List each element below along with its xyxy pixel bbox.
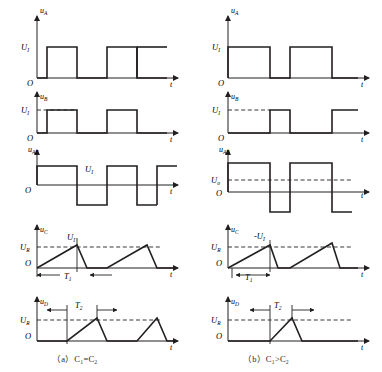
caption-b: （b）C₁>C₂: [243, 352, 289, 364]
origin-label-b1: O: [218, 78, 224, 88]
panel-b-uAB: uAB Uo O t: [211, 145, 369, 212]
level-label-UI-b1: UI: [212, 42, 221, 53]
interval-label-T1-a4: T1: [64, 271, 72, 282]
time-label-b1: t: [361, 80, 364, 89]
time-label-a1: t: [170, 80, 173, 89]
level-label-UI-a1: UI: [21, 42, 30, 53]
time-label-a5: t: [170, 343, 173, 352]
axis-label-uAB-right: uAB: [219, 145, 230, 155]
origin-label-a2: O: [27, 133, 33, 143]
interval-label-T2-b5: T2: [274, 300, 282, 311]
panel-a-uD: uD UR O T2 t: [20, 297, 178, 352]
origin-label-b5: O: [216, 331, 222, 341]
axis-label-uC-right: uC: [231, 225, 239, 235]
level-label-UR-b4: UR: [211, 242, 221, 253]
axis-label-uA-right: uA: [231, 6, 239, 16]
level-label-UR-b5: UR: [211, 315, 221, 326]
peak-label-UI-a4: UI: [67, 232, 76, 243]
panel-b-uB: uB UI O t: [212, 92, 369, 144]
level-label-UI-a3: UI: [85, 164, 94, 175]
panel-b-uC: uC -UI UR O T1 t: [211, 225, 369, 283]
waveform-figure: uA UI O t uB UI O t uAB UI O t uC UI: [0, 0, 382, 372]
interval-label-T1-b4: T1: [245, 272, 253, 283]
panel-b-uD: uD UR O T2 t: [211, 297, 369, 352]
time-label-b5: t: [361, 343, 364, 352]
level-label-UI-b2: UI: [212, 105, 221, 116]
axis-label-uB-left: uB: [40, 92, 48, 102]
origin-label-b3: O: [216, 188, 222, 198]
level-label-UI-a2: UI: [21, 105, 30, 116]
axis-label-uC-left: uC: [40, 225, 48, 235]
origin-label-a1: O: [27, 78, 33, 88]
axis-label-uB-right: uB: [231, 92, 239, 102]
level-label-Uo-b3: Uo: [211, 175, 220, 186]
origin-label-a4: O: [25, 258, 31, 268]
axis-label-uD-right: uD: [231, 297, 239, 307]
axis-label-uD-left: uD: [40, 297, 48, 307]
panel-a-uC: uC UI UR O T1 t: [20, 225, 178, 282]
axis-label-uAB-left: uAB: [28, 145, 39, 155]
origin-label-b4: O: [216, 258, 222, 268]
origin-label-a3: O: [25, 185, 31, 195]
time-label-a4: t: [170, 270, 173, 279]
time-label-a3: t: [170, 187, 173, 196]
time-label-b2: t: [361, 135, 364, 144]
origin-label-a5: O: [25, 331, 31, 341]
panel-a-uB: uB UI O t: [21, 92, 178, 144]
axis-label-uA-left: uA: [40, 6, 48, 16]
waveform-svg: uA UI O t uB UI O t uAB UI O t uC UI: [0, 0, 382, 372]
panel-a-uA: uA UI O t: [21, 6, 178, 89]
origin-label-b2: O: [218, 133, 224, 143]
time-label-b4: t: [361, 270, 364, 279]
panel-a-uAB: uAB UI O t: [25, 145, 178, 205]
peak-label-minusUI-b4: -UI: [254, 231, 266, 242]
level-label-UR-a4: UR: [20, 242, 30, 253]
caption-a: （a）C₁=C₂: [52, 352, 97, 364]
time-label-a2: t: [170, 135, 173, 144]
level-label-UR-a5: UR: [20, 315, 30, 326]
interval-label-T2-a5: T2: [75, 300, 83, 311]
panel-b-uA: uA UI O t: [212, 6, 369, 89]
